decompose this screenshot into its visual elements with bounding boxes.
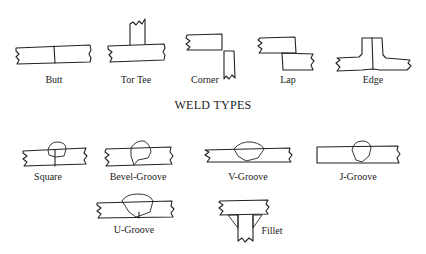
lap-label: Lap (280, 74, 296, 86)
weld-diagram (0, 0, 426, 254)
bevel-groove-label: Bevel-Groove (110, 171, 167, 183)
v-groove-weld-drawing (205, 142, 292, 162)
bevel-groove-weld-drawing (105, 141, 173, 166)
fillet-label: Fillet (261, 225, 282, 237)
butt-joint-drawing (16, 45, 91, 64)
edge-label: Edge (363, 74, 384, 86)
corner-label: Corner (191, 74, 219, 86)
u-groove-weld-drawing (97, 194, 174, 218)
j-groove-label: J-Groove (339, 171, 376, 183)
square-label: Square (34, 171, 62, 183)
edge-joint-drawing (336, 38, 411, 71)
lap-joint-drawing (258, 37, 314, 70)
corner-joint-drawing (186, 34, 235, 79)
square-weld-drawing (23, 142, 87, 166)
butt-label: Butt (45, 74, 62, 86)
tee-label: Tor Tee (121, 74, 151, 86)
v-groove-label: V-Groove (228, 171, 268, 183)
u-groove-label: U-Groove (114, 224, 155, 236)
j-groove-weld-drawing (317, 141, 400, 163)
diagram-title: WELD TYPES (174, 98, 251, 112)
tee-joint-drawing (108, 19, 165, 62)
